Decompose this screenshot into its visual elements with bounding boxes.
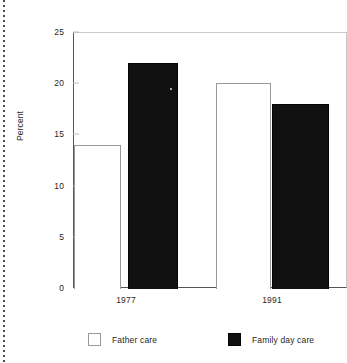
y-tick-label-5: 5: [59, 233, 64, 242]
y-tick-mark-15: [73, 134, 79, 135]
y-tick-label-15: 15: [54, 130, 64, 139]
legend-label-father-care: Father care: [112, 335, 157, 345]
x-group-separator-left: [74, 276, 75, 288]
bar-1991-family-day-care: [272, 104, 329, 289]
legend-swatch-father-care: [88, 333, 101, 346]
bar-chart: 25 20 15 10 5 0 Percent 1977 1991 Father…: [0, 0, 347, 363]
legend-item-father-care: Father care: [88, 333, 157, 346]
x-tick-label-1977: 1977: [116, 295, 136, 305]
bar-1991-father-care: [216, 83, 271, 289]
legend-item-family-day-care: Family day care: [228, 333, 314, 346]
y-tick-label-20: 20: [54, 79, 64, 88]
y-tick-mark-20: [73, 83, 79, 84]
y-tick-label-10: 10: [54, 182, 64, 191]
legend-swatch-family-day-care: [228, 333, 241, 346]
y-tick-mark-25: [73, 32, 79, 33]
x-group-separator-middle: [216, 276, 217, 288]
y-tick-label-0: 0: [59, 284, 64, 293]
y-tick-label-25: 25: [54, 28, 64, 37]
bar-1977-family-day-care: [128, 63, 178, 289]
y-axis: 25 20 15 10 5 0: [0, 0, 73, 363]
chart-legend: Father care Family day care: [0, 333, 347, 355]
bar-1977-father-care: [74, 145, 121, 289]
y-axis-title: Percent: [16, 111, 25, 141]
legend-label-family-day-care: Family day care: [252, 335, 314, 345]
scan-speck: [170, 88, 172, 90]
x-tick-label-1991: 1991: [262, 295, 282, 305]
